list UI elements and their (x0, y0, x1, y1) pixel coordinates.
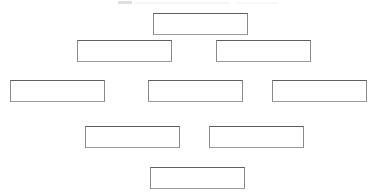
diagram-node-label (86, 127, 179, 147)
scan-artifact-smudge-left (134, 2, 230, 4)
diagram-node-label (11, 81, 104, 101)
diagram-node-label (273, 81, 366, 101)
diagram-node-1[interactable] (153, 13, 248, 35)
diagram-node-6[interactable] (272, 80, 367, 102)
diagram-node-9[interactable] (150, 167, 245, 189)
diagram-node-5[interactable] (148, 80, 243, 102)
diagram-node-label (210, 127, 303, 147)
scan-artifact-mark (118, 1, 132, 4)
diagram-canvas (0, 0, 372, 196)
diagram-node-2[interactable] (77, 40, 172, 62)
diagram-node-7[interactable] (85, 126, 180, 148)
scan-artifact-smudge-right (236, 2, 278, 4)
diagram-node-label (78, 41, 171, 61)
diagram-node-label (217, 41, 310, 61)
diagram-node-label (151, 168, 244, 188)
diagram-node-8[interactable] (209, 126, 304, 148)
diagram-node-label (149, 81, 242, 101)
diagram-node-4[interactable] (10, 80, 105, 102)
diagram-node-label (154, 14, 247, 34)
diagram-node-3[interactable] (216, 40, 311, 62)
